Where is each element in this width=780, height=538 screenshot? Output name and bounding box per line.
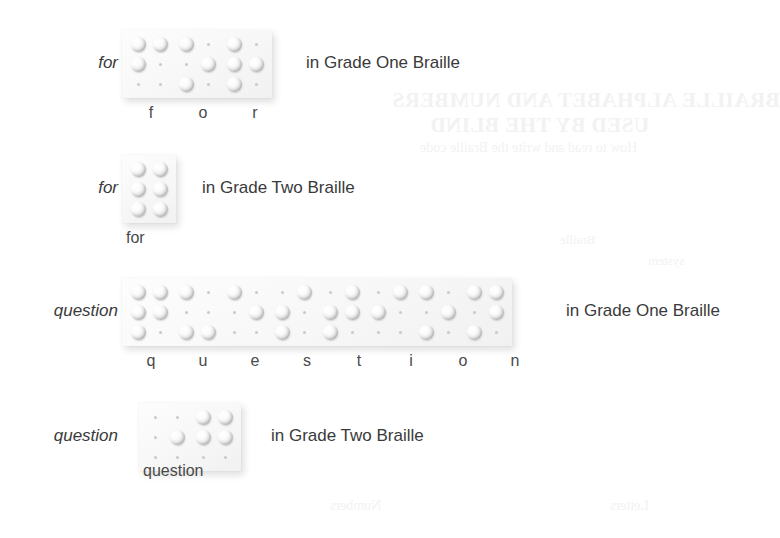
braille-dot-raised [467, 325, 482, 340]
braille-cell [221, 34, 269, 94]
bleed-through-word-a: Braille [560, 232, 595, 248]
example-caption: in Grade One Braille [566, 301, 720, 321]
braille-dot-raised [323, 325, 338, 340]
braille-dot-raised [201, 325, 216, 340]
letter-caption: s [281, 352, 333, 370]
braille-cell [142, 407, 190, 467]
braille-dot-empty [495, 331, 498, 334]
braille-dot-raised [131, 325, 146, 340]
braille-dot-empty [207, 311, 210, 314]
example-caption: in Grade Two Braille [271, 426, 424, 446]
braille-cell [173, 34, 221, 94]
braille-dot-empty [207, 291, 210, 294]
braille-dot-raised [131, 162, 146, 177]
braille-dot-raised [227, 37, 242, 52]
letter-caption: t [333, 352, 385, 370]
letter-caption: o [177, 104, 229, 122]
bleed-through-word-b: system [648, 253, 684, 269]
braille-dot-raised [201, 57, 216, 72]
braille-dot-raised [153, 182, 168, 197]
braille-cell [125, 159, 173, 219]
braille-plaque [122, 30, 272, 98]
braille-dot-empty [399, 311, 402, 314]
letter-caption: o [437, 352, 489, 370]
example-word-label: for [0, 178, 118, 198]
braille-dot-empty [303, 311, 306, 314]
bleed-through-title-line-2: USED BY THE BLIND [430, 113, 649, 138]
braille-dot-raised [467, 285, 482, 300]
braille-dot-raised [489, 285, 504, 300]
braille-dot-empty [224, 456, 227, 459]
braille-dot-empty [351, 331, 354, 334]
letter-caption: r [229, 104, 281, 122]
braille-dot-empty [329, 291, 332, 294]
bleed-through-subtitle: How to read and write the Braille code [420, 140, 637, 156]
braille-dot-raised [227, 77, 242, 92]
braille-dot-raised [131, 182, 146, 197]
braille-dot-raised [131, 285, 146, 300]
example-word-label: question [0, 301, 118, 321]
braille-dot-raised [227, 285, 242, 300]
bleed-through-word-c: Numbers [330, 498, 381, 514]
braille-dot-empty [154, 436, 157, 439]
contraction-word-label: for [126, 229, 145, 247]
braille-dot-raised [275, 305, 290, 320]
braille-dot-empty [255, 43, 258, 46]
letter-caption-strip: question [125, 352, 541, 370]
braille-dot-raised [153, 162, 168, 177]
braille-dot-empty [473, 311, 476, 314]
braille-dot-raised [153, 37, 168, 52]
braille-dot-raised [153, 202, 168, 217]
braille-dot-empty [159, 63, 162, 66]
braille-dot-empty [425, 311, 428, 314]
bleed-through-title-line-1: BRAILLE ALPHABET AND NUMBERS [392, 88, 780, 113]
braille-dot-empty [399, 331, 402, 334]
braille-dot-raised [345, 305, 360, 320]
braille-cell [413, 282, 461, 342]
braille-dot-empty [233, 311, 236, 314]
braille-dot-raised [131, 57, 146, 72]
braille-dot-empty [185, 311, 188, 314]
braille-cell [190, 407, 238, 467]
braille-dot-empty [154, 456, 157, 459]
braille-dot-raised [131, 305, 146, 320]
braille-dot-raised [249, 57, 264, 72]
braille-dot-empty [447, 291, 450, 294]
braille-dot-empty [159, 331, 162, 334]
braille-dot-empty [281, 291, 284, 294]
braille-dot-raised [218, 430, 233, 445]
braille-dot-raised [393, 285, 408, 300]
braille-dot-raised [489, 305, 504, 320]
braille-dot-empty [185, 63, 188, 66]
example-word-label: question [0, 426, 118, 446]
braille-dot-raised [179, 325, 194, 340]
braille-dot-raised [153, 285, 168, 300]
braille-dot-empty [207, 83, 210, 86]
braille-cell [173, 282, 221, 342]
braille-plaque [122, 155, 176, 223]
letter-caption-strip: for [125, 104, 281, 122]
braille-dot-raised [218, 410, 233, 425]
braille-dot-empty [137, 83, 140, 86]
braille-dot-raised [371, 305, 386, 320]
braille-dot-raised [419, 325, 434, 340]
braille-dot-raised [196, 410, 211, 425]
braille-plaque [122, 278, 512, 346]
braille-dot-raised [179, 285, 194, 300]
letter-caption: e [229, 352, 281, 370]
braille-dot-empty [255, 331, 258, 334]
braille-dot-raised [419, 285, 434, 300]
contraction-word-label: question [143, 462, 204, 480]
braille-cell [317, 282, 365, 342]
braille-dot-empty [303, 331, 306, 334]
braille-dot-raised [227, 57, 242, 72]
braille-dot-raised [131, 37, 146, 52]
braille-dot-empty [233, 331, 236, 334]
braille-dot-raised [153, 305, 168, 320]
braille-dot-empty [176, 456, 179, 459]
braille-dot-empty [255, 291, 258, 294]
braille-dot-raised [179, 37, 194, 52]
example-caption: in Grade Two Braille [202, 178, 355, 198]
braille-dot-empty [377, 331, 380, 334]
braille-cell [221, 282, 269, 342]
